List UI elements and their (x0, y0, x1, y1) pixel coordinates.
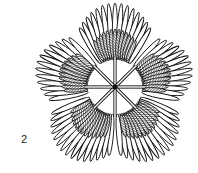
flower-illustration (0, 0, 198, 173)
figure-number-label: 2 (21, 133, 27, 145)
star-center (85, 57, 145, 117)
center-dot (113, 85, 118, 90)
